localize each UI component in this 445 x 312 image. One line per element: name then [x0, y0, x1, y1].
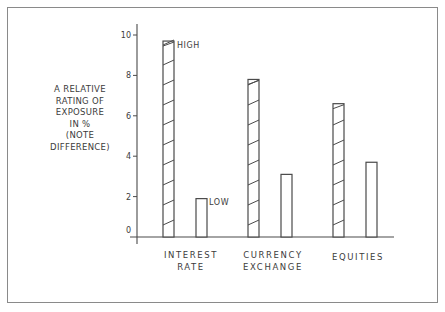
y-tick-label: 2 — [126, 193, 131, 202]
y-axis-label-line: EXPOSURE — [56, 107, 104, 117]
y-tick-label: 6 — [126, 112, 131, 121]
bar-low — [281, 174, 292, 237]
bar-high — [163, 41, 174, 237]
category-label: INTEREST — [164, 250, 218, 260]
bar-high — [333, 104, 344, 237]
y-axis-label-line: A RELATIVE — [54, 84, 106, 94]
bar-low — [196, 199, 207, 237]
category-label: EQUITIES — [332, 252, 384, 262]
y-tick-label: 4 — [126, 152, 131, 161]
bar-high — [248, 79, 259, 237]
bar-chart: 0246810A RELATIVERATING OFEXPOSUREIN %(N… — [0, 0, 445, 312]
category-label: CURRENCY — [243, 250, 302, 260]
annotation-low: LOW — [209, 198, 229, 207]
y-axis-label-line: DIFFERENCE) — [50, 142, 110, 152]
y-tick-label: 8 — [126, 71, 131, 80]
annotation-high: HIGH — [177, 41, 200, 50]
y-axis-label-line: RATING OF — [56, 96, 104, 106]
bar-low — [366, 162, 377, 237]
y-tick-label: 10 — [121, 31, 131, 40]
category-label: EXCHANGE — [243, 262, 303, 272]
y-axis-label-line: IN % — [70, 119, 91, 129]
y-tick-label: 0 — [126, 226, 131, 235]
y-axis-label-line: (NOTE — [66, 130, 94, 140]
category-label: RATE — [177, 262, 205, 272]
